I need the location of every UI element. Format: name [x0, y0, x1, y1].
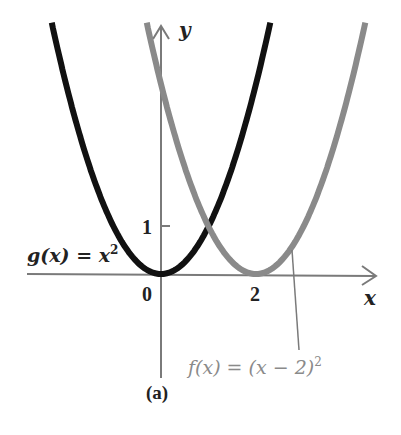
figure-caption: (a) [146, 382, 168, 404]
axes [27, 26, 376, 378]
x-axis-label: x [363, 286, 377, 310]
function-graph: y x 0 2 1 g(x) = x2 f(x) = (x − 2)2 (a) [0, 0, 401, 435]
x-tick-label-2: 2 [250, 283, 260, 305]
y-tick-label-1: 1 [142, 216, 152, 238]
f-curve [147, 23, 365, 274]
g-function-label: g(x) = x2 [27, 243, 118, 266]
y-axis-label: y [178, 18, 192, 42]
origin-label: 0 [142, 283, 152, 305]
f-function-label: f(x) = (x − 2)2 [186, 355, 322, 378]
f-label-leader-line [292, 250, 299, 350]
x-axis [27, 274, 376, 276]
